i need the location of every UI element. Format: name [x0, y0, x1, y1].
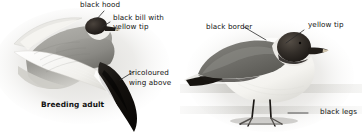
leader-black-hood	[96, 11, 104, 20]
label-black-legs: black legs	[320, 108, 357, 117]
label-wing-above: wing above	[129, 79, 171, 88]
label-yellow-tip-right: yellow tip	[308, 21, 344, 30]
leader-black-bill	[102, 22, 110, 27]
leader-yellow-tip	[286, 30, 304, 43]
label-tricoloured: tricoloured	[129, 69, 169, 78]
label-black-hood: black hood	[80, 1, 120, 10]
illustration-plate: black hood black bill with yellow tip tr…	[0, 0, 364, 138]
label-black-border: black border	[206, 23, 252, 32]
label-yellow-tip-left: yellow tip	[113, 23, 149, 32]
label-breeding-adult: Breeding adult	[41, 101, 104, 110]
